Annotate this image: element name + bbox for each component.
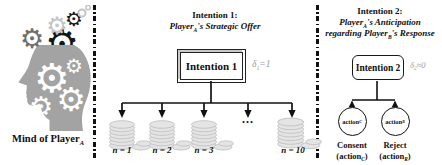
gear-icon: ⚙ [56,80,86,119]
action-r-text: action [385,118,402,125]
reject-label: Reject (actionR) [364,140,426,161]
r-header3-post: 's Response [392,28,435,38]
intention2-tree-connector [335,81,410,109]
intention2-box: Intention 2 [352,55,404,80]
intention2-header-subtitle2: regarding PlayerB's Response [320,28,440,39]
gear-icon: ⚙ [20,23,44,54]
action-reject-circle: actionR [381,107,410,136]
delta2-annotation: δ2≈0 [410,60,426,70]
mind-gears-icon: ⚙ ⚙ ⚙ ⚙ ⚙ ⚙ ⚙ ⚙ [8,5,96,131]
reject-word: Reject [364,140,426,151]
player-a-subscript: A [80,139,84,146]
bubble-ring-icon [86,5,90,9]
intention1-header-title: Intention 1: [130,10,300,21]
r-header2-pre: Player [339,17,363,27]
intention1-header: Intention 1: PlayerA's Strategic Offer [130,10,300,32]
offers-ellipsis: ... [236,112,260,127]
r-header2-post: 's Anticipation [367,17,421,27]
delta2-value: ≈0 [417,60,426,70]
intention2-box-label: Intention 2 [356,63,401,73]
delta1-annotation: δ1=1 [252,59,271,69]
consent-pre: (action [336,151,361,161]
delta1-value: =1 [259,59,270,69]
gear-icon: ⚙ [29,91,53,122]
offer-label-n3: n = 3 [181,145,227,155]
mind-of-player-text: Mind of Player [12,133,80,144]
intention2-header-title: Intention 2: [320,6,440,17]
offer-label-n2: n = 2 [139,145,185,155]
panel-divider-left [93,5,96,159]
intention1-box: Intention 1 [180,52,243,80]
reject-pre: (action [379,151,404,161]
action-consent-circle: actionC [338,107,367,136]
intention1-box-label: Intention 1 [186,60,238,72]
action-c-text: action [342,118,359,125]
mind-of-player-label: Mind of PlayerA [0,133,96,144]
gear-icon: ⚙ [65,54,83,78]
offer-label-n10: n = 10 [270,145,316,155]
intention2-header: Intention 2: PlayerA's Anticipation rega… [320,6,440,39]
intention2-header-subtitle1: PlayerA's Anticipation [320,17,440,28]
reject-post: ) [408,151,411,161]
intention1-header-subtitle: PlayerA's Strategic Offer [130,21,300,32]
header2-pre: Player [169,21,193,31]
reject-action-notation: (actionR) [364,151,426,162]
header2-post: 's Strategic Offer [197,21,260,31]
r-header3-pre: regarding Player [325,28,388,38]
diagram-canvas: ⚙ ⚙ ⚙ ⚙ ⚙ ⚙ ⚙ ⚙ Mind of PlayerA Intentio… [0,0,442,165]
